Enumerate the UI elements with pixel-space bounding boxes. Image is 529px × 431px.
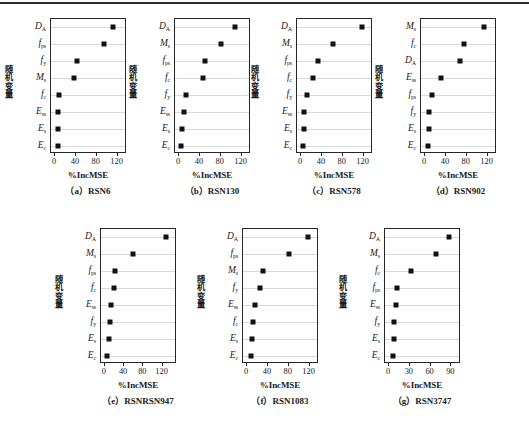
category-label-d-E_ss: Ess [390,72,416,83]
plot-area-f [242,228,318,363]
y-axis-title-f: 随机变量 [196,275,204,309]
category-label-f-E_s: Es [212,332,238,343]
panel-caption-c: （c）RSN578 [307,184,361,197]
category-label-b-D_A: DA [144,21,170,32]
y-axis-title-c: 随机变量 [250,65,258,99]
x-axis-title-e: %IncMSE [118,380,158,390]
x-tick-label-b-3: 120 [234,157,247,166]
category-label-d-f_y: fy [390,105,416,116]
gridline [175,146,249,147]
category-label-a-f_c: fc [20,88,46,99]
x-tick [117,153,118,156]
data-point-c-f_c [310,76,315,81]
data-point-a-M_s [71,76,76,81]
data-point-g-D_A [447,235,452,240]
y-axis-title-d: 随机变量 [374,65,382,99]
category-label-a-E_ss: Ess [20,105,46,116]
category-label-e-E_ss: Ess [70,298,96,309]
x-tick-label-e-1: 40 [119,367,127,376]
data-point-e-f_c [111,286,116,291]
category-label-e-f_ps: fps [70,265,96,276]
x-tick-label-d-2: 80 [462,157,470,166]
category-label-c-f_y: fy [266,88,292,99]
gridline [175,44,249,45]
category-label-d-D_A: DA [390,55,416,66]
data-point-f-f_ps [286,252,291,257]
x-tick-label-f-2: 80 [284,367,292,376]
x-tick-label-b-2: 80 [216,157,224,166]
plot-area-d [420,18,496,153]
x-tick [430,363,431,366]
data-point-a-f_y [74,59,79,64]
data-point-g-E_c [390,353,395,358]
data-point-d-E_s [427,126,432,131]
gridline [385,271,459,272]
data-point-f-f_y [257,286,262,291]
data-point-d-f_ps [429,92,434,97]
panel-caption-a: （a）RSN6 [65,184,110,197]
gridline [297,112,371,113]
x-tick [300,153,301,156]
data-point-g-M_s [434,252,439,257]
y-axis-title-b: 随机变量 [128,65,136,99]
data-point-e-M_s [130,252,135,257]
category-label-f-M_s: Ms [212,265,238,276]
panel-caption-b: （b）RSN130 [185,184,240,197]
x-tick-label-d-0: 0 [422,157,426,166]
category-label-c-E_c: Ec [266,139,292,150]
data-point-g-f_y [391,319,396,324]
x-tick [96,153,97,156]
x-axis-title-c: %IncMSE [314,170,354,180]
data-point-g-E_s [391,336,396,341]
plot-area-b [174,18,250,153]
x-tick [123,363,124,366]
category-label-g-M_s: Ms [354,248,380,259]
x-tick [487,153,488,156]
x-tick-label-c-0: 0 [298,157,302,166]
gridline [385,254,459,255]
category-label-b-f_c: fc [144,72,170,83]
x-tick-label-d-1: 40 [441,157,449,166]
plot-area-e [100,228,176,363]
panel-caption-e: （e）RSNRSN947 [102,394,174,407]
category-label-b-E_ss: Ess [144,105,170,116]
x-tick-label-f-0: 0 [244,367,248,376]
x-tick-label-b-1: 40 [195,157,203,166]
gridline [51,129,125,130]
data-point-e-D_A [164,235,169,240]
category-label-b-f_ps: fps [144,55,170,66]
gridline [243,356,317,357]
data-point-e-E_s [106,336,111,341]
x-tick-label-e-3: 120 [155,367,168,376]
x-axis-title-a: %IncMSE [68,170,108,180]
x-tick [246,363,247,366]
data-point-d-f_y [427,109,432,114]
data-point-c-f_y [304,92,309,97]
x-tick [104,363,105,366]
data-point-b-f_ps [202,59,207,64]
gridline [51,146,125,147]
gridline [51,78,125,79]
data-point-b-E_ss [181,109,186,114]
category-label-a-E_c: Ec [20,139,46,150]
gridline [51,61,125,62]
category-label-g-E_s: Es [354,332,380,343]
gridline [421,78,495,79]
category-label-f-f_ps: fps [212,248,238,259]
category-label-e-f_c: fc [70,282,96,293]
x-axis-title-b: %IncMSE [192,170,232,180]
gridline [51,95,125,96]
data-point-a-f_ps [102,42,107,47]
gridline [101,356,175,357]
x-tick-label-a-1: 40 [71,157,79,166]
gridline [101,254,175,255]
data-point-f-D_A [306,235,311,240]
data-point-f-E_s [250,336,255,341]
x-tick [220,153,221,156]
x-tick-label-a-3: 120 [110,157,123,166]
data-point-e-E_c [104,353,109,358]
x-tick [445,153,446,156]
category-label-b-E_s: Es [144,122,170,133]
category-label-b-f_y: fy [144,88,170,99]
category-label-a-f_y: fy [20,55,46,66]
